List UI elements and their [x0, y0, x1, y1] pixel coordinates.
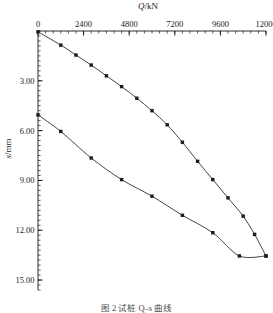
x-tick-label: 0	[36, 19, 40, 29]
x-tick-label: 4800	[121, 19, 138, 29]
y-tick-label: 12.00	[15, 225, 34, 235]
y-tick-label: 6.00	[20, 126, 35, 136]
data-point-marker	[196, 160, 199, 163]
x-tick-label: 7200	[166, 19, 183, 29]
svg-text:s/mm: s/mm	[3, 138, 13, 158]
data-point-marker	[150, 195, 153, 198]
data-point-marker	[150, 109, 153, 112]
data-point-marker	[135, 97, 138, 100]
data-point-marker	[253, 233, 256, 236]
data-point-marker	[211, 231, 214, 234]
data-point-marker	[242, 214, 245, 217]
y-axis-title: s/mm	[3, 138, 13, 158]
data-point-marker	[59, 43, 62, 46]
data-point-marker	[120, 178, 123, 181]
data-point-marker	[264, 254, 267, 257]
data-point-marker	[238, 254, 241, 257]
y-tick-label: 3.00	[20, 76, 35, 86]
figure-caption: 图 2 试桩 Q–s 曲线	[0, 301, 273, 313]
data-point-marker	[226, 196, 229, 199]
series-line-1	[38, 115, 266, 258]
x-tick-label: 2400	[75, 19, 92, 29]
data-point-marker	[105, 74, 108, 77]
x-tick-label: 12000	[255, 19, 273, 29]
data-point-marker	[74, 53, 77, 56]
x-axis-title: Q/kN	[138, 1, 159, 11]
series-line-0	[38, 32, 266, 256]
data-point-marker	[181, 141, 184, 144]
data-point-marker	[36, 30, 39, 33]
data-point-marker	[181, 214, 184, 217]
y-tick-label: 9.00	[20, 175, 35, 185]
data-point-marker	[36, 113, 39, 116]
y-tick-label: 15.00	[15, 275, 34, 285]
data-point-marker	[211, 178, 214, 181]
data-point-marker	[166, 123, 169, 126]
x-tick-label: 9600	[212, 19, 229, 29]
data-point-marker	[59, 130, 62, 133]
data-point-marker	[120, 85, 123, 88]
data-point-marker	[90, 63, 93, 66]
data-point-marker	[90, 156, 93, 159]
